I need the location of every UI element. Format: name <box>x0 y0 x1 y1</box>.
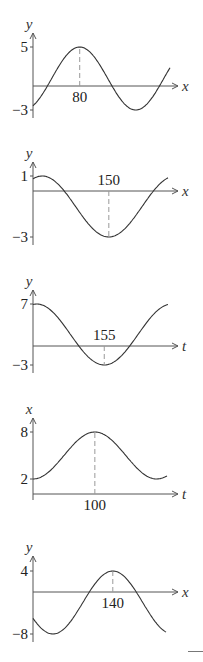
y-tick-label-max: 1 <box>21 168 29 184</box>
page-corner-rule <box>188 651 203 652</box>
x-tick-label-extremum: 150 <box>98 172 121 188</box>
y-tick-label-min: −3 <box>12 229 28 245</box>
x-axis-label: x <box>181 183 189 199</box>
x-axis-label: x <box>181 584 189 600</box>
sinusoid-curve <box>33 47 170 110</box>
y-tick-label-min: −3 <box>12 357 28 373</box>
y-tick-label-max: 7 <box>21 296 29 312</box>
x-axis-label: t <box>182 486 187 502</box>
sinusoid-curve <box>33 571 166 634</box>
y-tick-label-max: 4 <box>21 563 29 579</box>
x-axis-label: t <box>182 338 187 354</box>
y-tick-label-min: −3 <box>12 102 28 118</box>
y-tick-label-min: −8 <box>12 626 28 642</box>
y-axis-label: y <box>24 16 33 32</box>
sinusoid-graphs-figure: yx5−380yx1−3150yt7−3155xt82100yx4−8140 <box>0 0 203 662</box>
x-tick-label-extremum: 100 <box>84 497 107 513</box>
y-axis-label: y <box>24 145 33 161</box>
y-tick-label-max: 5 <box>21 39 29 55</box>
y-tick-label-max: 8 <box>21 424 29 440</box>
y-axis-label: y <box>24 273 33 289</box>
y-tick-label-min: 2 <box>21 471 29 487</box>
sinusoid-curve <box>33 432 167 479</box>
x-tick-label-extremum: 140 <box>102 595 125 611</box>
y-axis-label: x <box>25 401 33 417</box>
x-tick-label-extremum: 155 <box>93 327 116 343</box>
x-axis-label: x <box>181 78 189 94</box>
x-tick-label-extremum: 80 <box>72 89 87 105</box>
y-axis-label: y <box>24 539 33 555</box>
